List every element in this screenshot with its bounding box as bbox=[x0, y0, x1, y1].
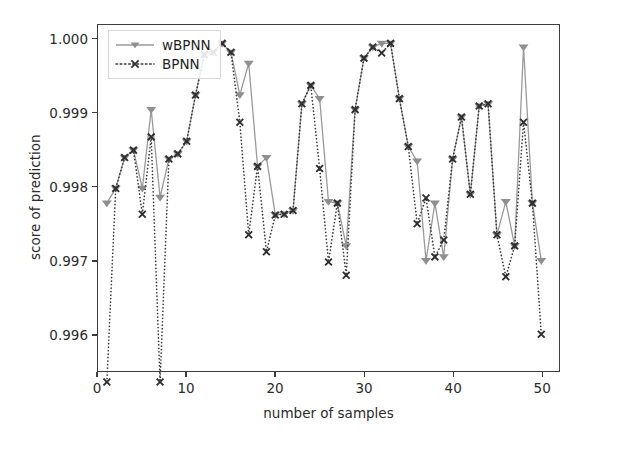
data-marker-triangle bbox=[155, 195, 165, 202]
x-tick-mark bbox=[542, 372, 543, 377]
legend-label-wbpnn: wBPNN bbox=[162, 37, 211, 53]
data-marker-triangle bbox=[536, 258, 546, 265]
data-marker-triangle bbox=[421, 258, 431, 265]
x-tick-label: 0 bbox=[93, 380, 102, 396]
x-tick-mark bbox=[185, 372, 186, 377]
legend-swatch-wbpnn bbox=[115, 37, 155, 53]
data-marker-triangle bbox=[146, 107, 156, 114]
legend-label-bpnn: BPNN bbox=[162, 56, 200, 72]
x-tick-mark bbox=[274, 372, 275, 377]
data-marker-triangle bbox=[412, 159, 422, 166]
data-marker-triangle bbox=[501, 199, 511, 206]
data-marker-triangle bbox=[519, 45, 529, 52]
x-tick-label: 10 bbox=[177, 380, 194, 396]
y-axis-label: score of prediction bbox=[27, 134, 43, 260]
data-marker-x bbox=[378, 50, 385, 57]
data-marker-triangle bbox=[439, 254, 449, 261]
x-axis-label: number of samples bbox=[263, 405, 393, 421]
data-marker-x bbox=[103, 379, 110, 386]
data-marker-triangle bbox=[244, 61, 254, 68]
data-marker-triangle bbox=[102, 201, 112, 208]
x-tick-label: 30 bbox=[356, 380, 373, 396]
data-marker-x bbox=[538, 331, 545, 338]
x-tick-label: 20 bbox=[266, 380, 283, 396]
y-tick-label: 0.999 bbox=[49, 105, 88, 121]
series-bpnn bbox=[103, 40, 544, 385]
legend-swatch-bpnn bbox=[115, 56, 155, 72]
data-marker-triangle bbox=[430, 201, 440, 208]
x-tick-label: 40 bbox=[445, 380, 462, 396]
plot-area: wBPNN BPNN bbox=[97, 24, 560, 372]
data-marker-triangle bbox=[315, 96, 325, 103]
x-tick-label: 50 bbox=[534, 380, 551, 396]
y-tick-label: 0.998 bbox=[49, 179, 88, 195]
x-tick-mark bbox=[453, 372, 454, 377]
legend: wBPNN BPNN bbox=[108, 30, 221, 79]
x-tick-mark bbox=[364, 372, 365, 377]
x-tick-mark bbox=[96, 372, 97, 377]
figure-canvas: score of prediction 0.9960.9970.9980.999… bbox=[0, 0, 623, 460]
y-tick-label: 1.000 bbox=[49, 31, 88, 47]
y-tick-label: 0.997 bbox=[49, 253, 88, 269]
legend-entry-bpnn: BPNN bbox=[115, 54, 211, 73]
y-tick-label: 0.996 bbox=[49, 327, 88, 343]
series-line bbox=[107, 43, 541, 382]
legend-entry-wbpnn: wBPNN bbox=[115, 35, 211, 54]
